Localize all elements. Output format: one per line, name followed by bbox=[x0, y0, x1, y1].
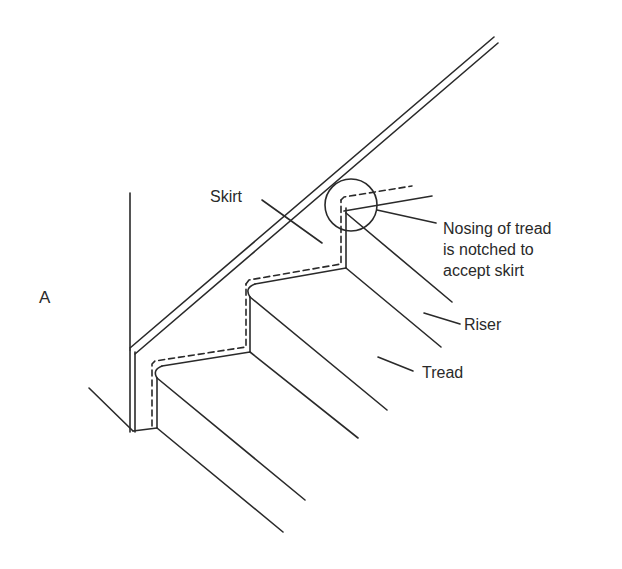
step-1 bbox=[152, 284, 358, 532]
riser-leader bbox=[424, 313, 460, 324]
tread-leader bbox=[378, 357, 413, 371]
figure-letter: A bbox=[39, 287, 50, 308]
skirt-bottom bbox=[133, 428, 157, 431]
nosing-label-line3: accept skirt bbox=[443, 260, 524, 281]
skirt-label: Skirt bbox=[210, 186, 242, 207]
stair-skirt-diagram: A Skirt Nosing of tread is notched to ac… bbox=[0, 0, 622, 569]
step-3 bbox=[341, 186, 452, 302]
nosing-label-line1: Nosing of tread bbox=[443, 218, 552, 239]
floor-line bbox=[89, 388, 133, 431]
stair-drawing bbox=[0, 0, 622, 569]
tread-label: Tread bbox=[422, 362, 463, 383]
post-line bbox=[130, 193, 135, 432]
riser-label: Riser bbox=[464, 314, 501, 335]
nosing-label-line2: is notched to bbox=[443, 239, 534, 260]
skirt-top-edge bbox=[130, 37, 498, 354]
nosing-detail-circle bbox=[325, 179, 377, 231]
step-2 bbox=[246, 200, 441, 410]
nosing-leader bbox=[377, 210, 436, 223]
